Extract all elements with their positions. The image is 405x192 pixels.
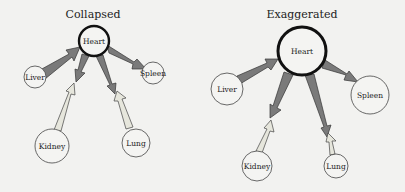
- panel-title: Exaggerated: [266, 8, 337, 21]
- node-lung-label: Lung: [126, 139, 146, 148]
- node-heart-label: Heart: [83, 37, 105, 46]
- node-heart-label: Heart: [291, 47, 313, 56]
- node-kidney-label: Kidney: [244, 162, 271, 171]
- diagram-canvas: Collapsed Heart Liver Spleen Kidney Lung…: [0, 0, 405, 192]
- node-spleen-label: Spleen: [357, 91, 383, 100]
- node-lung-label: Lung: [326, 162, 346, 171]
- panel-collapsed: Collapsed Heart Liver Spleen Kidney Lung: [24, 8, 166, 163]
- node-kidney-label: Kidney: [39, 142, 66, 151]
- arrow-heart-kidney: [75, 54, 89, 82]
- panel-exaggerated: Exaggerated Heart Liver Spleen Kidney Lu…: [211, 8, 389, 181]
- arrow-heart-lung: [96, 55, 116, 94]
- arrow-kidney-heart: [54, 83, 75, 131]
- diagram-svg: Collapsed Heart Liver Spleen Kidney Lung…: [0, 0, 405, 192]
- panel-title: Collapsed: [66, 8, 121, 21]
- arrow-heart-lung: [305, 74, 331, 137]
- arrow-lung-heart: [114, 91, 133, 129]
- node-liver-label: Liver: [25, 73, 45, 82]
- node-spleen-label: Spleen: [140, 69, 166, 78]
- arrow-heart-spleen: [107, 45, 146, 69]
- node-liver-label: Liver: [217, 85, 237, 94]
- arrow-liver-heart: [237, 59, 278, 84]
- arrow-kidney-heart: [256, 120, 274, 153]
- arrow-heart-spleen: [322, 60, 358, 82]
- arrow-lung-heart: [326, 133, 336, 155]
- arrow-heart-kidney: [270, 72, 293, 118]
